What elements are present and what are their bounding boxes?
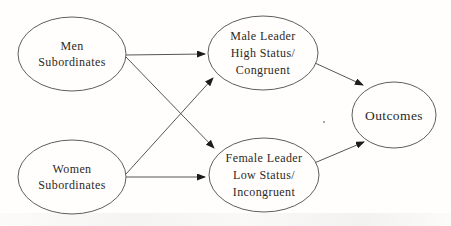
node-female-leader: Female LeaderLow Status/Incongruent [209, 138, 319, 212]
node-women-subordinates: WomenSubordinates [18, 140, 126, 214]
node-female-leader-label-line-2: Low Status/ [233, 168, 295, 182]
node-men-subordinates-ellipse [18, 17, 126, 91]
scan-speck [323, 121, 325, 123]
arrow-female-leader-to-outcomes [312, 142, 364, 164]
node-women-subordinates-label-line-2: Subordinates [38, 178, 105, 192]
node-men-subordinates-label-line-1: Men [60, 39, 83, 53]
node-men-subordinates: MenSubordinates [18, 17, 126, 91]
node-outcomes: Outcomes [352, 82, 436, 148]
node-male-leader: Male LeaderHigh Status/Congruent [208, 16, 318, 90]
node-male-leader-label-line-2: High Status/ [231, 46, 296, 60]
leader-status-congruence-diagram: MenSubordinatesWomenSubordinatesMale Lea… [0, 0, 451, 226]
node-outcomes-label-line-1: Outcomes [365, 108, 423, 123]
node-male-leader-label-line-3: Congruent [236, 63, 291, 77]
node-women-subordinates-ellipse [18, 140, 126, 214]
node-female-leader-label-line-3: Incongruent [233, 185, 296, 199]
arrow-male-leader-to-outcomes [315, 63, 363, 85]
arrow-men-subordinates-to-male-leader [126, 54, 205, 55]
arrow-women-subordinates-to-male-leader [126, 78, 213, 174]
node-men-subordinates-label-line-2: Subordinates [38, 55, 105, 69]
node-female-leader-label-line-1: Female Leader [226, 151, 303, 165]
arrow-men-subordinates-to-female-leader [126, 57, 214, 148]
figure-page: MenSubordinatesWomenSubordinatesMale Lea… [0, 0, 451, 226]
node-women-subordinates-label-line-1: Women [52, 162, 91, 176]
node-male-leader-label-line-1: Male Leader [230, 29, 295, 43]
